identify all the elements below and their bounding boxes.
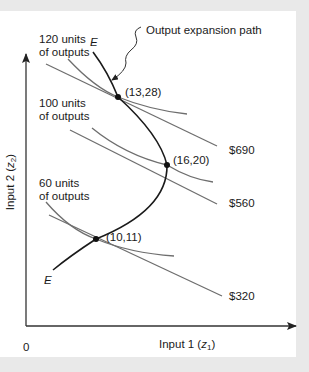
expansion-path-pointer-icon [112, 27, 141, 80]
y-axis-var: z [4, 162, 16, 168]
origin-label: 0 [23, 341, 29, 354]
point-13-28 [115, 94, 121, 100]
isoquant-60-label-line2: of outputs [39, 190, 90, 203]
x-axis-label: Input 1 (z1) [159, 338, 215, 354]
isocost-560 [70, 130, 217, 204]
point-label-13-28: (13,28) [125, 86, 161, 99]
isocost-320 [49, 215, 222, 296]
y-axis-sub: 2 [9, 158, 18, 162]
isocost-label-320: $320 [229, 290, 255, 303]
isocost-label-560: $560 [229, 197, 255, 210]
tangency-points [93, 94, 170, 242]
point-label-10-11: (10,11) [106, 231, 142, 244]
curve-label-e-top: E [90, 36, 98, 49]
x-axis-label-text: Input 1 [159, 338, 194, 350]
y-axis-label-text: Input 2 [4, 175, 16, 210]
point-10-11 [93, 236, 99, 242]
isoquant-60-label-line1: 60 units [39, 177, 79, 190]
isocost-label-690: $690 [229, 144, 255, 157]
x-axis-sub: 1 [207, 343, 211, 352]
isoquant-120-label-line1: 120 units [39, 33, 86, 46]
isoquant-100-label-line2: of outputs [39, 110, 90, 123]
isoquant-100-label-line1: 100 units [39, 97, 86, 110]
point-16-20 [164, 162, 170, 168]
y-axis-label: Input 2 (z2) [4, 122, 18, 242]
point-label-16-20: (16,20) [173, 154, 209, 167]
expansion-path-title: Output expansion path [146, 24, 262, 37]
isoquant-120-label-line2: of outputs [39, 46, 90, 59]
curve-label-e-bottom: E [44, 274, 52, 287]
isoquant-60 [46, 202, 174, 256]
